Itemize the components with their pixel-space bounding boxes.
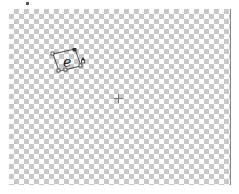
canvas-edge <box>230 9 231 185</box>
toolbar-mark <box>26 2 29 5</box>
handle-top-left[interactable] <box>51 52 54 55</box>
rotated-selection-box[interactable]: e <box>50 48 86 74</box>
handle-top-right[interactable] <box>73 48 76 51</box>
crosshair-icon <box>113 93 124 104</box>
selected-glyph: e <box>63 54 71 70</box>
rotate-cursor-icon <box>82 57 85 63</box>
handle-bottom-right[interactable] <box>79 64 82 67</box>
handle-bottom-left[interactable] <box>57 69 60 72</box>
